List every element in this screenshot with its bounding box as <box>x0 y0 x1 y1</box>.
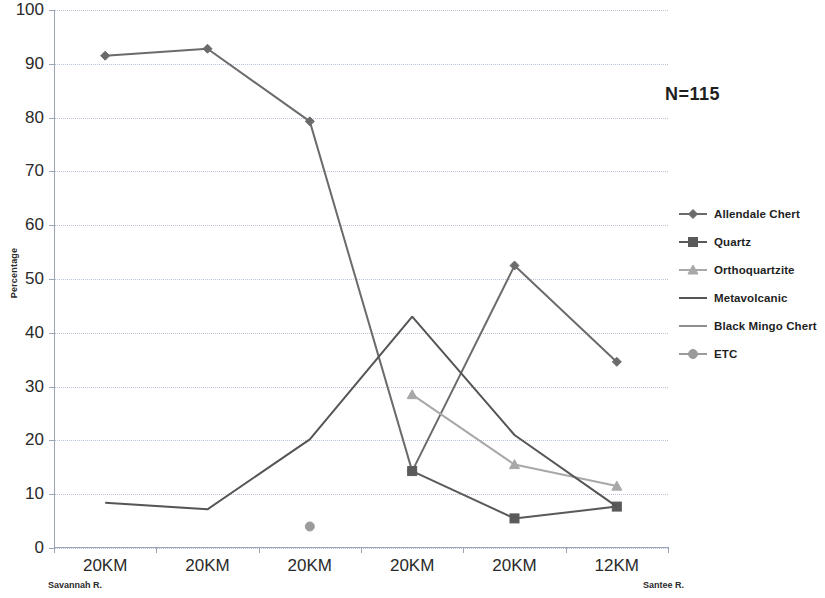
series-metavolcanic <box>105 317 617 510</box>
y-tick-label: 40 <box>8 324 44 341</box>
series-line <box>105 317 617 510</box>
data-point-marker <box>510 460 520 469</box>
y-tick-label: 10 <box>8 485 44 502</box>
legend-item-label: Black Mingo Chert <box>714 320 817 332</box>
y-tick-label: 100 <box>8 1 44 18</box>
x-tick-label: 20KM <box>156 556 258 576</box>
y-tick-label: 20 <box>8 431 44 448</box>
y-tick-label: 80 <box>8 109 44 126</box>
data-point-marker <box>101 51 110 60</box>
x-tick-label: 12KM <box>566 556 668 576</box>
left-river-label: Savannah R. <box>48 580 102 590</box>
right-river-label: Santee R. <box>643 580 684 590</box>
x-tick-label: 20KM <box>361 556 463 576</box>
legend-item-label: ETC <box>714 348 737 360</box>
legend-marker-icon <box>678 347 708 361</box>
chart-legend: Allendale ChertQuartzOrthoquartziteMetav… <box>678 200 823 368</box>
series-etc <box>305 522 314 531</box>
legend-item-label: Orthoquartzite <box>714 264 795 276</box>
y-tick-label: 70 <box>8 162 44 179</box>
legend-item-metavolcanic[interactable]: Metavolcanic <box>678 284 823 312</box>
series-quartz <box>408 467 622 523</box>
legend-item-label: Allendale Chert <box>714 208 800 220</box>
data-point-marker <box>689 238 698 247</box>
y-axis-tick-labels: 1009080706050403020100 <box>0 0 44 598</box>
legend-marker-icon <box>678 235 708 249</box>
series-line <box>105 49 617 471</box>
series-orthoquartzite <box>407 390 622 490</box>
legend-marker-icon <box>678 263 708 277</box>
chart-container: Percentage 1009080706050403020100 12KM20… <box>0 0 825 598</box>
series-layer <box>54 10 668 548</box>
x-axis-tick-labels: 12KM20KM20KM20KM20KM20KM Savannah R. San… <box>54 556 668 598</box>
legend-marker-icon <box>678 319 708 333</box>
plot-area <box>54 10 668 548</box>
y-tick-label: 90 <box>8 55 44 72</box>
data-point-marker <box>305 522 314 531</box>
x-tick-mark <box>668 547 669 553</box>
data-point-marker <box>689 210 698 219</box>
legend-item-black-mingo-chert[interactable]: Black Mingo Chert <box>678 312 823 340</box>
legend-item-etc[interactable]: ETC <box>678 340 823 368</box>
data-point-marker <box>408 467 417 476</box>
sample-size-annotation: N=115 <box>665 84 720 105</box>
data-point-marker <box>407 390 417 399</box>
data-point-marker <box>510 514 519 523</box>
legend-marker-icon <box>678 291 708 305</box>
y-tick-label: 0 <box>8 539 44 556</box>
data-point-marker <box>689 350 698 359</box>
legend-item-allendale-chert[interactable]: Allendale Chert <box>678 200 823 228</box>
legend-item-quartz[interactable]: Quartz <box>678 228 823 256</box>
y-tick-label: 50 <box>8 270 44 287</box>
y-tick-label: 60 <box>8 216 44 233</box>
series-line <box>412 471 617 518</box>
legend-item-label: Metavolcanic <box>714 292 787 304</box>
x-tick-label: 20KM <box>259 556 361 576</box>
x-tick-label: 20KM <box>463 556 565 576</box>
legend-marker-icon <box>678 207 708 221</box>
legend-item-label: Quartz <box>714 236 751 248</box>
legend-item-orthoquartzite[interactable]: Orthoquartzite <box>678 256 823 284</box>
series-allendale-chert <box>101 44 622 475</box>
y-tick-label: 30 <box>8 378 44 395</box>
x-tick-label: 20KM <box>54 556 156 576</box>
